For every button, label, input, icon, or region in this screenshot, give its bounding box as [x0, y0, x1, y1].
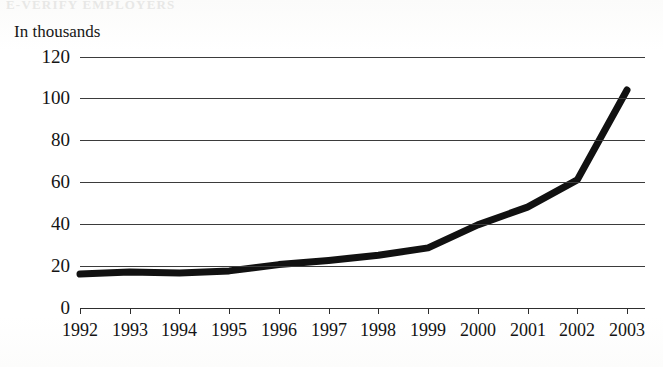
x-tick-label-1994: 1994 — [152, 320, 206, 340]
x-tick-2000 — [478, 308, 479, 314]
x-tick-label-2000: 2000 — [451, 320, 505, 340]
x-axis-line — [80, 308, 645, 309]
gridline-60 — [80, 182, 645, 183]
x-tick-label-1995: 1995 — [202, 320, 256, 340]
x-tick-2003 — [627, 308, 628, 314]
gridline-40 — [80, 224, 645, 225]
chart-figure: E-VERIFY EMPLOYERS In thousands 02040608… — [0, 0, 663, 367]
y-tick-label-40: 40 — [8, 214, 70, 233]
x-tick-label-1998: 1998 — [351, 320, 405, 340]
x-tick-label-1997: 1997 — [302, 320, 356, 340]
y-tick-label-0: 0 — [8, 298, 70, 317]
x-tick-label-2001: 2001 — [501, 320, 555, 340]
x-tick-label-1996: 1996 — [252, 320, 306, 340]
y-tick-label-120: 120 — [8, 47, 70, 66]
x-tick-1997 — [329, 308, 330, 314]
gridline-80 — [80, 140, 645, 141]
plot-area: 0204060801001201992199319941995199619971… — [0, 0, 663, 367]
x-tick-1999 — [428, 308, 429, 314]
x-tick-label-2002: 2002 — [550, 320, 604, 340]
x-tick-1996 — [279, 308, 280, 314]
y-tick-label-80: 80 — [8, 130, 70, 149]
x-tick-2001 — [528, 308, 529, 314]
x-tick-1995 — [229, 308, 230, 314]
x-tick-label-1999: 1999 — [401, 320, 455, 340]
data-series-line — [0, 0, 663, 367]
x-tick-1993 — [130, 308, 131, 314]
x-tick-1994 — [179, 308, 180, 314]
x-tick-label-1993: 1993 — [103, 320, 157, 340]
y-tick-label-60: 60 — [8, 172, 70, 191]
x-tick-label-2003: 2003 — [600, 320, 654, 340]
gridline-100 — [80, 98, 645, 99]
x-tick-label-1992: 1992 — [53, 320, 107, 340]
y-tick-label-20: 20 — [8, 256, 70, 275]
y-tick-label-100: 100 — [8, 88, 70, 107]
gridline-20 — [80, 266, 645, 267]
x-tick-1992 — [80, 308, 81, 314]
gridline-120 — [80, 57, 645, 58]
x-tick-1998 — [378, 308, 379, 314]
x-tick-2002 — [577, 308, 578, 314]
